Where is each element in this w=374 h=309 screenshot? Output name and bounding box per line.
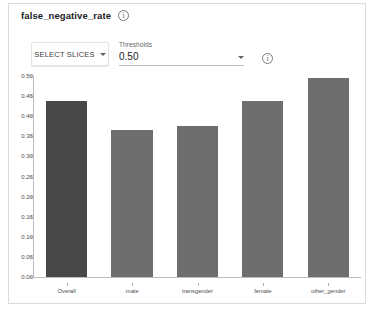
info-icon[interactable] <box>118 10 129 21</box>
bar-slot <box>230 76 295 277</box>
bar-slot <box>99 76 164 277</box>
x-axis-tick-label: Overall <box>34 288 99 294</box>
y-axis-tick-mark <box>29 277 32 278</box>
x-axis-tick-label: other_gender <box>296 288 361 294</box>
y-axis-tick-mark <box>29 156 32 157</box>
bar[interactable] <box>308 78 349 277</box>
y-axis-tick-mark <box>29 136 32 137</box>
x-axis-baseline <box>34 303 361 304</box>
bar[interactable] <box>242 101 283 277</box>
x-axis-tick-label: transgender <box>165 288 230 294</box>
select-slices-label: SELECT SLICES <box>34 50 94 59</box>
x-axis-tick-label: female <box>230 288 295 294</box>
thresholds-label: Thresholds <box>119 40 244 49</box>
x-axis-line <box>33 277 361 278</box>
y-axis-tick-mark <box>29 96 32 97</box>
thresholds-value-row: 0.50 <box>119 51 244 63</box>
chevron-down-icon <box>100 53 106 56</box>
y-axis-tick-mark <box>29 196 32 197</box>
y-axis-tick-mark <box>29 176 32 177</box>
x-axis-tick-mark <box>132 283 133 286</box>
x-axis-tick-mark <box>328 283 329 286</box>
y-axis-tick-mark <box>29 116 32 117</box>
chevron-down-icon <box>238 56 244 59</box>
x-axis-labels: Overallmaletransgenderfemaleother_gender <box>34 283 361 299</box>
y-axis-tick-mark <box>29 256 32 257</box>
card-header: false_negative_rate <box>21 10 129 21</box>
plot-area <box>34 76 361 277</box>
select-slices-button[interactable]: SELECT SLICES <box>31 42 109 66</box>
bar[interactable] <box>177 126 218 277</box>
y-axis-tick-mark <box>29 76 32 77</box>
x-axis-tick-label: male <box>99 288 164 294</box>
thresholds-select[interactable]: Thresholds 0.50 <box>119 40 244 66</box>
x-axis-tick-mark <box>198 283 199 286</box>
metric-card: false_negative_rate SELECT SLICES Thresh… <box>8 3 366 304</box>
bar[interactable] <box>46 101 87 277</box>
bar-slot <box>165 76 230 277</box>
page-title: false_negative_rate <box>21 10 111 21</box>
y-axis-tick-mark <box>29 216 32 217</box>
bar-chart: 0.000.050.100.150.200.250.300.350.400.45… <box>9 74 366 304</box>
x-axis-tick-mark <box>263 283 264 286</box>
bar[interactable] <box>111 130 152 277</box>
thresholds-info-icon[interactable] <box>262 53 273 64</box>
bar-slot <box>296 76 361 277</box>
thresholds-value: 0.50 <box>119 51 138 63</box>
y-axis-tick-mark <box>29 236 32 237</box>
controls-row: SELECT SLICES Thresholds 0.50 <box>31 40 273 66</box>
bar-slot <box>34 76 99 277</box>
x-axis-tick-mark <box>67 283 68 286</box>
